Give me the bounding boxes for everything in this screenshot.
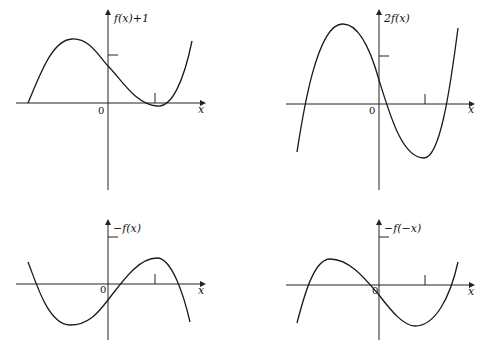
function-curve [28,39,192,106]
y-axis-label: 2f(x) [383,12,410,25]
function-curve [297,24,458,158]
origin-label: 0 [369,105,375,116]
y-axis-label: −f(−x) [384,222,421,235]
x-axis-label: x [198,284,205,297]
function-transformations-figure: f(x)+10x2f(x)0x−f(x)0x−f(−x)0x [0,0,490,359]
x-axis-label: x [468,285,475,298]
x-axis-label: x [198,103,205,116]
graph-panel-top-left: f(x)+10x [16,12,205,190]
origin-label: 0 [98,105,104,116]
origin-label: 0 [372,285,378,296]
x-axis-label: x [468,103,475,116]
graph-panel-top-right: 2f(x)0x [286,12,475,190]
graph-panel-bottom-left: −f(x)0x [16,222,205,340]
y-axis-label: f(x)+1 [113,12,149,25]
function-curve [28,258,190,325]
origin-label: 0 [100,284,106,295]
y-axis-label: −f(x) [113,222,141,235]
graph-panel-bottom-right: −f(−x)0x [286,222,475,340]
